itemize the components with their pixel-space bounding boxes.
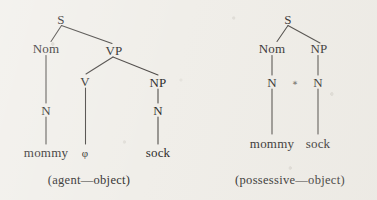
node-s-left: S bbox=[57, 13, 64, 26]
branch-vp-to-np-left bbox=[113, 57, 158, 75]
tree-branch-lines bbox=[0, 0, 377, 200]
node-nom-left: Nom bbox=[33, 42, 60, 55]
branch-vp-to-v-left bbox=[86, 57, 113, 74]
caption-agent-object: (agent—object) bbox=[48, 174, 131, 187]
terminal-sock-left: sock bbox=[146, 146, 171, 159]
branch-s-to-nom-right bbox=[277, 26, 288, 42]
asterisk-boundary-marker: ⁎ bbox=[293, 78, 298, 87]
terminal-null-verb-left: φ bbox=[82, 148, 88, 159]
node-nom-right: Nom bbox=[259, 42, 286, 55]
node-n-np-right: N bbox=[313, 76, 323, 89]
node-n-nom-left: N bbox=[41, 104, 51, 117]
branch-s-to-nom-left bbox=[51, 26, 62, 42]
node-s-right: S bbox=[284, 13, 291, 26]
node-vp-left: VP bbox=[105, 44, 122, 57]
syntax-tree-figure: S Nom VP V NP N N mommy φ sock (agent—ob… bbox=[0, 0, 377, 200]
node-np-left: NP bbox=[149, 76, 166, 89]
terminal-mommy-left: mommy bbox=[24, 146, 68, 159]
node-n-nom-right: N bbox=[267, 76, 277, 89]
node-n-np-left: N bbox=[153, 104, 163, 117]
node-v-left: V bbox=[80, 75, 90, 88]
branch-s-to-vp-left bbox=[62, 26, 113, 44]
terminal-sock-right: sock bbox=[306, 137, 331, 150]
terminal-mommy-right: mommy bbox=[250, 137, 294, 150]
node-np-right: NP bbox=[310, 42, 327, 55]
caption-possessive-object: (possessive—object) bbox=[235, 174, 345, 187]
